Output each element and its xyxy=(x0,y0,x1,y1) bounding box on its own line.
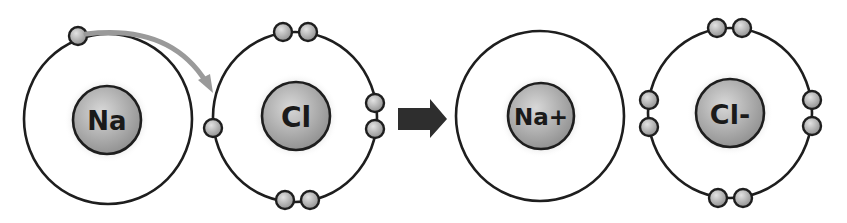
atom-cl-ion: Cl- xyxy=(640,19,821,207)
electron xyxy=(803,91,821,109)
electron xyxy=(734,189,752,207)
element-label: Cl xyxy=(281,101,311,134)
element-label: Na+ xyxy=(514,104,568,130)
atom-na: Na xyxy=(24,27,192,204)
electron xyxy=(366,94,384,112)
electron xyxy=(640,118,658,136)
diagram-canvas: NaClNa+Cl- xyxy=(0,0,847,223)
atom-na-ion: Na+ xyxy=(456,31,624,201)
electron xyxy=(204,119,222,137)
electron xyxy=(733,19,751,37)
electron xyxy=(708,19,726,37)
ionic-bond-diagram: NaClNa+Cl- xyxy=(0,0,847,223)
electron xyxy=(803,117,821,135)
electron xyxy=(366,120,384,138)
electron xyxy=(274,23,292,41)
atom-cl: Cl xyxy=(204,23,384,209)
electron xyxy=(709,189,727,207)
electron xyxy=(299,23,317,41)
element-label: Na xyxy=(87,106,126,136)
reaction-arrow-icon xyxy=(398,99,447,138)
electron xyxy=(640,91,658,109)
electron xyxy=(276,191,294,209)
electron xyxy=(301,191,319,209)
electron xyxy=(69,27,87,45)
element-label: Cl- xyxy=(710,99,750,130)
